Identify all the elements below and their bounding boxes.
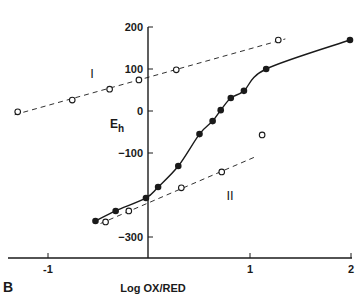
data-point-open — [136, 77, 142, 83]
data-point-filled — [155, 184, 162, 191]
y-axis-title: Eh — [110, 117, 124, 134]
y-tick-label: −100 — [118, 147, 143, 159]
data-point-filled — [347, 37, 354, 44]
data-point-filled — [217, 107, 224, 114]
data-point-filled — [175, 163, 182, 170]
y-tick-label: 200 — [125, 21, 143, 33]
dashed-line-I — [15, 39, 286, 115]
x-tick-label: -1 — [43, 263, 53, 275]
y-tick-label: 100 — [125, 63, 143, 75]
y-axis-title-main: E — [110, 117, 118, 131]
chart: 2001000−100−300 -112 I II Eh Log OX/RED … — [0, 0, 361, 302]
data-point-filled — [241, 88, 248, 95]
x-ticks: -112 — [43, 253, 354, 275]
data-point-filled — [112, 208, 119, 215]
data-point-filled — [92, 218, 99, 225]
data-point-open — [219, 169, 225, 175]
data-point-filled — [228, 95, 235, 102]
series-label-I: I — [90, 66, 94, 81]
data-point-filled — [209, 118, 216, 125]
series-points — [15, 37, 353, 225]
data-point-open — [259, 132, 265, 138]
data-point-filled — [196, 131, 203, 138]
data-point-open — [103, 219, 109, 225]
panel-label: B — [3, 279, 13, 295]
y-tick-label: 0 — [137, 105, 143, 117]
data-point-open — [275, 37, 281, 43]
x-axis-title: Log OX/RED — [120, 282, 185, 294]
data-point-filled — [143, 195, 150, 202]
data-point-open — [15, 109, 21, 115]
data-point-filled — [263, 66, 270, 73]
data-point-open — [107, 86, 113, 92]
data-point-open — [173, 67, 179, 73]
series-label-II: II — [226, 188, 233, 203]
series-lines — [15, 39, 350, 224]
axes: 2001000−100−300 -112 — [8, 21, 354, 275]
x-tick-label: 2 — [348, 263, 354, 275]
x-tick-label: 1 — [247, 263, 253, 275]
y-axis-title-sub: h — [118, 123, 124, 134]
data-point-open — [126, 208, 132, 214]
y-tick-label: −300 — [118, 231, 143, 243]
data-point-open — [69, 97, 75, 103]
data-point-open — [179, 185, 185, 191]
